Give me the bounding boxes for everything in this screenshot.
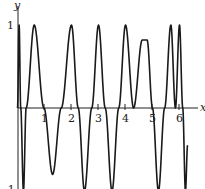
x-tick-label-2: 2 bbox=[68, 112, 75, 125]
x-tick-label-4: 4 bbox=[122, 112, 129, 125]
x-axis-label: x bbox=[200, 101, 205, 114]
function-curve bbox=[18, 25, 188, 189]
y-axis-label: y bbox=[13, 0, 21, 12]
x-ticks bbox=[44, 104, 179, 110]
x-tick-label-3: 3 bbox=[95, 112, 102, 125]
x-tick-label-6: 6 bbox=[176, 112, 183, 125]
y-tick-label-1: 1 bbox=[7, 19, 14, 32]
line-chart: y x 1 -1 1 2 3 4 5 6 bbox=[0, 0, 205, 189]
y-tick-label-neg1: -1 bbox=[4, 183, 15, 189]
